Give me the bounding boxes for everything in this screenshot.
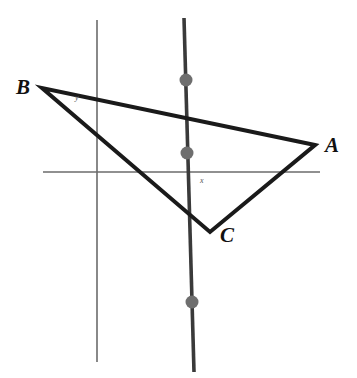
geometry-figure: B A C y x bbox=[0, 0, 357, 378]
marked-point-top bbox=[180, 74, 193, 87]
marked-point-middle bbox=[181, 147, 194, 160]
marked-point-bottom bbox=[186, 296, 199, 309]
x-axis-label: x bbox=[200, 177, 204, 185]
vertex-label-a: A bbox=[325, 135, 339, 156]
vertex-label-c: C bbox=[220, 225, 234, 246]
vertex-label-b: B bbox=[16, 77, 30, 98]
marked-line bbox=[184, 18, 194, 372]
geometry-canvas bbox=[0, 0, 357, 378]
y-axis-label: y bbox=[75, 94, 79, 102]
triangle-abc bbox=[42, 88, 315, 232]
